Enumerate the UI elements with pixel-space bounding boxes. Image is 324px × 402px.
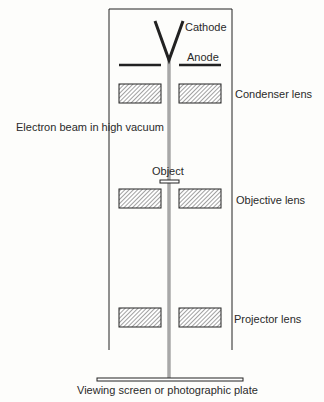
objective-lens-label: Objective lens xyxy=(236,194,305,206)
anode-label: Anode xyxy=(187,51,219,63)
electron-microscope-diagram: Cathode Anode Condenser lens Electron be… xyxy=(0,0,324,402)
cathode-label: Cathode xyxy=(185,21,227,33)
object-specimen xyxy=(160,180,179,183)
viewing-screen-label: Viewing screen or photographic plate xyxy=(77,384,258,396)
condenser-lens-label: Condenser lens xyxy=(235,88,312,100)
object-label: Object xyxy=(152,165,184,177)
cathode xyxy=(155,21,183,60)
viewing-screen xyxy=(97,378,243,381)
projector-lens-label: Projector lens xyxy=(234,313,301,325)
electron-beam-label: Electron beam in high vacuum xyxy=(16,121,164,133)
